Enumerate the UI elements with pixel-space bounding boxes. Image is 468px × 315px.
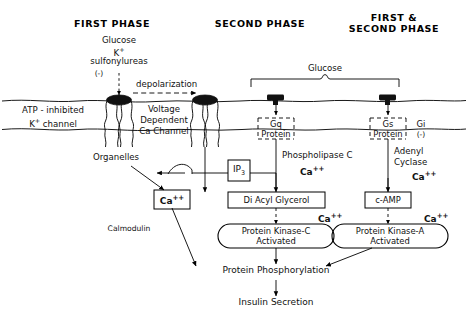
ca-symbol: Ca	[160, 196, 173, 206]
pkc-line-2: Activated	[256, 236, 296, 246]
header-first-phase: FIRST PHASE	[52, 18, 172, 29]
ac-calcium-label: Ca++	[412, 169, 452, 182]
katp-channel-wall-left-inner	[116, 102, 119, 148]
depolarization-label: depolarization	[136, 79, 208, 89]
ca-channel-wall-left-inner	[202, 102, 205, 148]
gs-receptor-glyph	[379, 95, 396, 106]
ac-ca-symbol: Ca	[412, 172, 425, 182]
adenyl-cyclase-label: Adenyl Cyclase	[394, 146, 450, 168]
katp-channel-wall-left	[104, 101, 107, 147]
katp-line-1: ATP - inhibited	[22, 105, 84, 115]
camp-box-label: c-AMP	[365, 196, 411, 206]
plc-ca-charge: ++	[313, 165, 325, 173]
gq-protein-word: Protein	[261, 129, 290, 139]
vdcc-line-2: Dependent	[140, 115, 188, 125]
ip3-symbol: IP	[233, 164, 241, 174]
ac-line-2: Cyclase	[394, 157, 427, 167]
plc-calcium-label: Ca++	[300, 164, 340, 177]
header-first-and-second-phase: FIRST & SECOND PHASE	[332, 12, 456, 34]
pka-label: Protein Kinase-A Activated	[332, 227, 448, 246]
pkc-ca-charge: ++	[331, 212, 343, 220]
vdcc-line-1: Voltage	[148, 104, 180, 114]
inhibition-sign: (-)	[88, 69, 110, 79]
katp-line-3: channel	[43, 119, 77, 129]
stimulus-sulfonylureas: sulfonylureas	[69, 56, 169, 66]
pka-ca-charge: ++	[437, 212, 449, 220]
phospholipase-c-label: Phospholipase C	[282, 150, 372, 160]
pkc-calcium-label: Ca++	[318, 211, 358, 224]
insulin-secretion-label: Insulin Secretion	[206, 297, 346, 307]
katp-channel-label: ATP - inhibited K+ channel	[8, 105, 98, 130]
gs-protein-label: Gs Protein	[370, 120, 406, 139]
calcium-box-label: Ca++	[154, 194, 190, 207]
diagram-canvas: FIRST PHASE SECOND PHASE FIRST & SECOND …	[0, 0, 468, 315]
gs-protein-word: Protein	[373, 129, 402, 139]
vdcc-line-3: Ca Channel	[139, 126, 188, 136]
gq-symbol: Gq	[270, 119, 282, 129]
ip3-box-label: IP3	[228, 165, 250, 178]
gi-symbol: Gi	[417, 119, 426, 129]
membrane-outer-line	[2, 100, 466, 102]
pka-to-phosphorylation-arrow	[326, 248, 372, 266]
gi-label: Gi (-)	[408, 120, 434, 139]
katp-charge: +	[35, 117, 40, 125]
header-line-1: FIRST &	[371, 12, 417, 23]
gi-sign: (-)	[417, 130, 426, 139]
ac-ca-charge: ++	[425, 170, 437, 178]
ca-channel-cap	[193, 95, 218, 105]
glucose-bracket-label: Glucose	[295, 63, 355, 73]
organelles-label: Organelles	[81, 152, 151, 162]
gq-protein-label: Gq Protein	[258, 120, 294, 139]
pka-line-1: Protein Kinase-A	[356, 226, 424, 236]
pkc-label: Protein Kinase-C Activated	[218, 227, 334, 246]
calmodulin-label: Calmodulin	[98, 224, 160, 234]
stimulus-glucose: Glucose	[79, 35, 159, 45]
vdcc-label: Voltage Dependent Ca Channel	[133, 104, 195, 137]
potassium-charge: +	[119, 46, 124, 54]
gq-receptor-glyph	[267, 95, 284, 106]
ca-channel-wall-right	[217, 101, 220, 147]
pkc-line-1: Protein Kinase-C	[242, 226, 311, 236]
protein-phosphorylation-label: Protein Phosphorylation	[196, 265, 356, 275]
ip3-subscript: 3	[241, 169, 245, 177]
ac-line-1: Adenyl	[394, 146, 423, 156]
header-line-2: SECOND PHASE	[349, 23, 439, 34]
organelle-to-ca-arrow	[131, 166, 164, 190]
dag-box-label: Di Acyl Glycerol	[228, 196, 325, 206]
header-second-phase: SECOND PHASE	[200, 18, 320, 29]
organelle-release-curve	[168, 164, 192, 174]
calmodulin-arrow	[172, 208, 196, 266]
pka-line-2: Activated	[370, 236, 410, 246]
glucose-bracket	[251, 75, 399, 87]
katp-channel-wall-right-inner	[119, 102, 122, 148]
plc-ca-symbol: Ca	[300, 167, 313, 177]
pka-calcium-label: Ca++	[424, 211, 464, 224]
pka-ca-symbol: Ca	[424, 214, 437, 224]
katp-channel-cap	[107, 95, 132, 105]
ca-channel-wall-right-inner	[205, 102, 208, 148]
pkc-ca-symbol: Ca	[318, 214, 331, 224]
gs-symbol: Gs	[383, 119, 394, 129]
ca-charge: ++	[172, 194, 184, 202]
